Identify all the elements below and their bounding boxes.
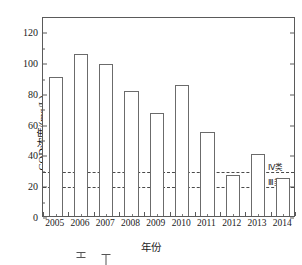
x-tick-label-2007: 2007 <box>96 219 115 229</box>
x-minor-tick-mark <box>106 214 107 216</box>
x-tick-label-2005: 2005 <box>45 219 64 229</box>
bar-2012 <box>226 175 240 216</box>
y-tick-mark <box>43 125 47 126</box>
x-minor-tick-mark <box>56 214 57 216</box>
x-tick-mark <box>119 212 120 216</box>
error-bar-cap-upper <box>102 254 111 255</box>
y-tick-mark <box>43 33 47 34</box>
y-tick-mark <box>43 94 47 95</box>
y-minor-tick-mark <box>43 48 45 49</box>
x-minor-tick-mark <box>157 214 158 216</box>
x-tick-label-2010: 2010 <box>172 219 191 229</box>
y-tick-label: 120 <box>23 28 43 38</box>
bar-2010 <box>175 85 189 216</box>
x-minor-tick-mark <box>81 214 82 216</box>
x-tick-label-2013: 2013 <box>248 219 267 229</box>
x-tick-mark <box>43 212 44 216</box>
x-minor-tick-mark <box>233 214 234 216</box>
x-minor-tick-mark <box>132 214 133 216</box>
x-tick-mark <box>68 212 69 216</box>
x-tick-mark <box>94 212 95 216</box>
x-minor-tick-mark <box>283 214 284 216</box>
y-tick-mark <box>43 64 47 65</box>
x-tick-mark <box>220 212 221 216</box>
x-tick-mark <box>170 212 171 216</box>
y-minor-tick-mark <box>43 79 45 80</box>
x-minor-tick-mark <box>182 214 183 216</box>
x-tick-mark <box>295 212 296 216</box>
error-bar-cap-lower <box>76 257 85 258</box>
y-tick-mark-right <box>290 64 294 65</box>
x-tick-mark <box>245 212 246 216</box>
bar-2008 <box>124 91 138 216</box>
x-axis-label: 年份 <box>0 239 302 254</box>
y-tick-mark-right <box>290 125 294 126</box>
y-tick-label: 0 <box>33 213 43 223</box>
y-tick-label: 20 <box>28 182 43 192</box>
x-tick-label-2014: 2014 <box>273 219 292 229</box>
bar-2006 <box>74 54 88 216</box>
plot-frame: 020406080100120Ⅳ类Ⅲ类 <box>42 17 295 217</box>
x-tick-mark <box>144 212 145 216</box>
x-tick-label-2006: 2006 <box>70 219 89 229</box>
y-tick-mark-right <box>290 94 294 95</box>
cod-concentration-bar-chart: COD浓度/(mg/L) 020406080100120Ⅳ类Ⅲ类 年份 2005… <box>0 0 302 265</box>
bar-2007 <box>99 64 113 216</box>
y-minor-tick-mark <box>43 141 45 142</box>
reference-line-label: Ⅳ类 <box>267 164 283 172</box>
bar-2014 <box>276 178 290 216</box>
x-tick-label-2008: 2008 <box>121 219 140 229</box>
y-tick-mark-right <box>290 33 294 34</box>
y-tick-label: 40 <box>28 151 43 161</box>
y-minor-tick-mark <box>43 202 45 203</box>
bar-2005 <box>49 77 63 216</box>
x-tick-mark <box>271 212 272 216</box>
y-tick-mark <box>43 156 47 157</box>
y-tick-mark-right <box>290 156 294 157</box>
x-tick-label-2011: 2011 <box>197 219 216 229</box>
x-tick-label-2009: 2009 <box>146 219 165 229</box>
y-tick-label: 80 <box>28 90 43 100</box>
x-minor-tick-mark <box>258 214 259 216</box>
error-bar-stem <box>106 254 107 265</box>
bar-2013 <box>251 154 265 216</box>
y-tick-label: 60 <box>28 121 43 131</box>
y-minor-tick-mark <box>43 110 45 111</box>
bar-2011 <box>200 132 214 216</box>
x-tick-label-2012: 2012 <box>222 219 241 229</box>
x-tick-mark <box>195 212 196 216</box>
bar-2009 <box>150 113 164 216</box>
y-tick-label: 100 <box>23 59 43 69</box>
plot-area: 020406080100120Ⅳ类Ⅲ类 <box>43 18 294 216</box>
x-minor-tick-mark <box>207 214 208 216</box>
